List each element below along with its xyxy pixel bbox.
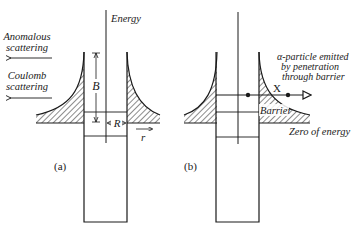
coulomb-label-line2: scattering — [6, 81, 48, 92]
anomalous-label-line1: Anomalous — [2, 31, 50, 42]
radius-label: R — [113, 117, 121, 129]
coulomb-label-line1: Coulomb — [8, 70, 47, 81]
nuclear-potential-diagram: Anomalous scattering Coulomb scattering … — [0, 0, 358, 233]
barrier-label: Barrier — [260, 105, 292, 116]
anomalous-label-line2: scattering — [6, 42, 48, 53]
left-coulomb-barrier — [184, 52, 217, 123]
barrier-height-label: B — [92, 79, 100, 93]
alpha-particle-inside-dot — [246, 93, 250, 97]
panel-a: Anomalous scattering Coulomb scattering … — [2, 10, 160, 222]
tunnel-label: X — [273, 82, 281, 94]
panel-b-label: (b) — [184, 160, 197, 173]
alpha-particle-outside-dot — [286, 93, 290, 97]
energy-axis-label: Energy — [110, 13, 141, 24]
diagram-svg: Anomalous scattering Coulomb scattering … — [0, 0, 358, 233]
coulomb-scattering-annotation: Coulomb scattering — [6, 70, 52, 98]
zero-of-energy-label: Zero of energy — [289, 126, 350, 137]
emission-note-line3: through barrier — [282, 71, 345, 82]
panel-a-label: (a) — [54, 160, 67, 173]
panel-b: X Barrier Zero of energy α-particle emit… — [184, 12, 350, 222]
r-axis-label: r — [141, 131, 146, 143]
anomalous-scattering-annotation: Anomalous scattering — [2, 31, 52, 58]
